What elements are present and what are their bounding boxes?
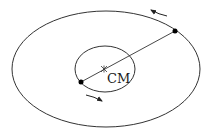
inner-body <box>79 80 84 85</box>
inner-direction-arrow-icon <box>86 95 102 101</box>
outer-body <box>173 29 178 34</box>
center-of-mass-label: CM <box>107 72 130 85</box>
orbit-diagram <box>0 0 210 133</box>
outer-direction-arrow-icon <box>151 10 167 16</box>
outer-orbit <box>12 11 200 127</box>
